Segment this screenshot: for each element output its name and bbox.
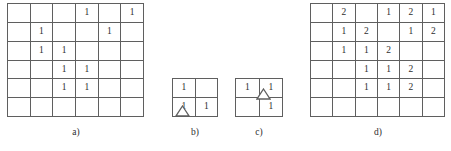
grid-cell — [8, 23, 31, 42]
grid-cell: 1 — [53, 79, 76, 98]
grid-cell: 1 — [400, 23, 422, 42]
grid-cell — [311, 61, 333, 80]
grid-cell — [53, 4, 76, 23]
grid-cell — [356, 98, 378, 117]
grid-cell — [76, 98, 99, 117]
grid-cell — [121, 98, 144, 117]
grid-cell: 2 — [378, 42, 400, 61]
grid-cell — [76, 23, 99, 42]
grid-cell: 1 — [356, 61, 378, 80]
grid-cell — [8, 98, 31, 117]
grid-cell: 1 — [121, 4, 144, 23]
grid-cell — [311, 98, 333, 117]
grid-cell: 1 — [423, 4, 445, 23]
grid-cell: 1 — [356, 42, 378, 61]
grid-cell — [99, 79, 122, 98]
panel-caption-c: c) — [239, 128, 279, 138]
grid-cell: 1 — [31, 42, 54, 61]
grid-cell: 1 — [53, 42, 76, 61]
panel-caption-b: b) — [175, 128, 215, 138]
grid-cell — [333, 61, 355, 80]
grid-cell — [99, 42, 122, 61]
grid-panel-d: 21211212112112112 — [310, 3, 445, 117]
grid-cell: 1 — [76, 4, 99, 23]
grid-cell — [400, 98, 422, 117]
grid-cell: 1 — [76, 61, 99, 80]
grid-cell: 1 — [378, 61, 400, 80]
grid-cell: 1 — [260, 98, 284, 117]
grid-cell: 1 — [378, 79, 400, 98]
grid-cell — [121, 42, 144, 61]
grid-cell: 2 — [400, 79, 422, 98]
grid-cell — [423, 61, 445, 80]
grid-cell — [378, 23, 400, 42]
grid-cell: 2 — [423, 23, 445, 42]
grid-cell — [121, 61, 144, 80]
grid-cell: 1 — [260, 79, 284, 98]
grid-cell — [333, 98, 355, 117]
grid-cell: 1 — [356, 79, 378, 98]
panel-caption-d: d) — [358, 128, 398, 138]
grid-cell — [311, 42, 333, 61]
grid-cell: 1 — [99, 23, 122, 42]
grid-cell — [311, 23, 333, 42]
grid-cell — [121, 23, 144, 42]
grid-cell: 1 — [76, 79, 99, 98]
grid-cell — [423, 98, 445, 117]
grid-cell — [31, 4, 54, 23]
grid-cell — [31, 98, 54, 117]
grid-panel-a: 1111111111 — [7, 3, 144, 117]
grid-cell — [31, 79, 54, 98]
grid-panel-c: 111 — [235, 78, 283, 117]
grid-cell — [8, 79, 31, 98]
grid-cell: 2 — [356, 23, 378, 42]
grid-cell — [423, 42, 445, 61]
grid-cell: 1 — [333, 23, 355, 42]
grid-cell — [8, 61, 31, 80]
grid-cell: 1 — [173, 79, 196, 98]
grid-cell — [31, 61, 54, 80]
grid-cell — [53, 23, 76, 42]
grid-cell: 1 — [196, 98, 219, 117]
grid-cell — [333, 79, 355, 98]
grid-cell — [378, 98, 400, 117]
grid-cell — [196, 79, 219, 98]
panel-caption-a: a) — [56, 128, 96, 138]
figure-root: 1111111111 111 111 21211212112112112 a) … — [0, 0, 451, 151]
grid-cell — [311, 79, 333, 98]
grid-cell: 1 — [378, 4, 400, 23]
grid-cell — [99, 4, 122, 23]
grid-cell — [8, 42, 31, 61]
grid-cell: 1 — [53, 61, 76, 80]
grid-cell — [99, 98, 122, 117]
grid-cell: 1 — [173, 98, 196, 117]
grid-cell — [53, 98, 76, 117]
grid-cell — [400, 42, 422, 61]
grid-cell: 2 — [400, 4, 422, 23]
grid-cell — [236, 98, 260, 117]
grid-cell: 2 — [400, 61, 422, 80]
grid-cell: 1 — [333, 42, 355, 61]
grid-cell — [121, 79, 144, 98]
grid-cell — [99, 61, 122, 80]
grid-cell — [8, 4, 31, 23]
grid-cell — [423, 79, 445, 98]
grid-cell: 1 — [31, 23, 54, 42]
grid-panel-b: 111 — [172, 78, 218, 117]
grid-cell: 2 — [333, 4, 355, 23]
grid-cell — [76, 42, 99, 61]
grid-cell — [356, 4, 378, 23]
grid-cell — [311, 4, 333, 23]
grid-cell: 1 — [236, 79, 260, 98]
